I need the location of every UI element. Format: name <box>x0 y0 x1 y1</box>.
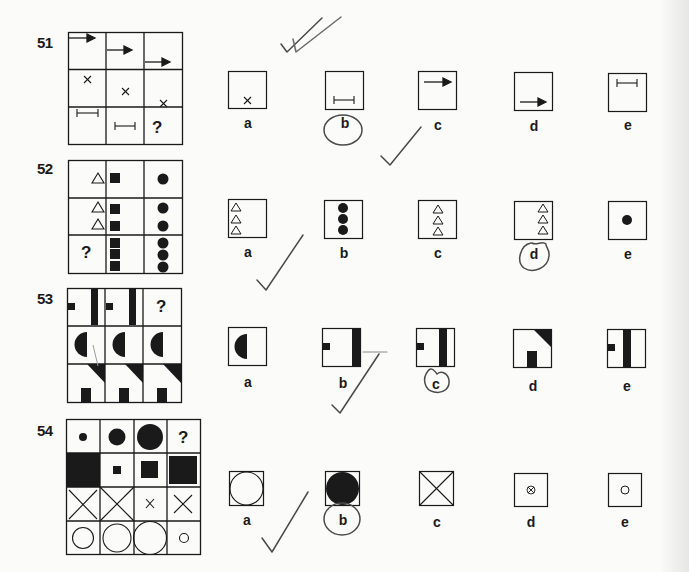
q53-option-a[interactable] <box>228 327 268 367</box>
option-label-c: c <box>427 514 447 530</box>
square-icon <box>110 173 120 271</box>
option-label-e: e <box>615 514 635 530</box>
checkmark-icon <box>257 235 303 290</box>
q52-option-c[interactable] <box>418 200 458 239</box>
question-number-53: 53 <box>37 290 53 307</box>
option-label-d: d <box>524 246 544 262</box>
q52-option-b[interactable] <box>324 200 364 239</box>
option-label-e: e <box>618 246 638 262</box>
option-label-d: d <box>524 118 544 134</box>
option-label-e: e <box>617 378 637 394</box>
question-mark: ? <box>178 428 188 448</box>
option-label-c: c <box>428 245 448 261</box>
q51-option-c[interactable] <box>418 71 458 110</box>
option-label-e: e <box>618 117 638 133</box>
option-label-d: d <box>521 514 541 530</box>
cross-icon <box>84 76 167 107</box>
q51-option-a[interactable] <box>228 71 268 109</box>
checkmark-icon <box>381 127 421 165</box>
circle-icon <box>158 174 169 273</box>
option-label-b: b <box>335 115 355 131</box>
arrow-icon <box>69 34 170 66</box>
question-number-51: 51 <box>37 34 53 51</box>
q51-puzzle-grid <box>68 32 183 145</box>
q52-option-d[interactable] <box>514 201 554 240</box>
question-mark: ? <box>81 243 91 263</box>
q54-option-e[interactable] <box>608 473 644 509</box>
option-label-a: a <box>238 115 258 131</box>
question-number-54: 54 <box>37 422 53 439</box>
q53-option-c[interactable] <box>416 328 456 368</box>
q52-option-e[interactable] <box>608 201 648 240</box>
q53-option-b[interactable] <box>322 328 362 368</box>
question-mark: ? <box>156 297 166 317</box>
q54-option-c[interactable] <box>419 471 455 507</box>
q54-option-b[interactable] <box>325 471 361 507</box>
q54-option-d[interactable] <box>514 473 550 509</box>
option-label-a: a <box>238 244 258 260</box>
option-label-b: b <box>333 512 353 528</box>
option-label-c: c <box>428 117 448 133</box>
q51-option-b[interactable] <box>325 71 365 110</box>
option-label-c: c <box>426 376 446 392</box>
question-mark: ? <box>152 118 162 138</box>
triangle-icon <box>92 173 104 229</box>
question-number-52: 52 <box>37 160 53 177</box>
q52-option-a[interactable] <box>228 199 268 238</box>
option-label-d: d <box>523 378 543 394</box>
q54-option-a[interactable] <box>229 471 265 507</box>
option-label-b: b <box>334 245 354 261</box>
option-label-a: a <box>237 512 257 528</box>
q51-option-d[interactable] <box>514 72 554 111</box>
option-label-a: a <box>238 374 258 390</box>
page-edge-shadow <box>659 0 689 572</box>
option-label-b: b <box>333 375 353 391</box>
q51-option-e[interactable] <box>608 73 648 112</box>
checkmark-icon <box>262 492 308 552</box>
q53-option-d[interactable] <box>513 329 553 369</box>
double-checkmark-icon <box>281 18 322 52</box>
q53-option-e[interactable] <box>607 329 647 369</box>
